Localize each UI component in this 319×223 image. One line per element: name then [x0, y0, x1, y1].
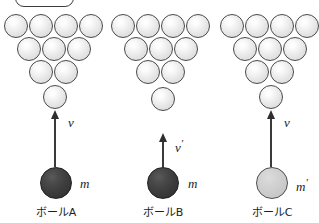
group-caption-c: ボールC: [222, 207, 319, 218]
pin-ball-c-r3-c2: [270, 60, 294, 84]
velocity-label-c: v: [284, 116, 290, 129]
pin-ball-c-r1-c1: [220, 14, 244, 38]
velocity-symbol-c: v: [284, 115, 290, 130]
velocity-arrow-head-c: [267, 110, 275, 119]
physics-collision-diagram: vmボールAv′mボールBvm′ボールC: [0, 0, 319, 223]
lone-pin-ball-c: [259, 85, 283, 109]
pin-ball-c-r3-c1: [245, 60, 269, 84]
ball-group-c: vm′ボールC: [0, 0, 319, 223]
mass-symbol-c: m: [296, 179, 305, 194]
pin-ball-c-r2-c3: [283, 37, 307, 61]
velocity-arrow-shaft-c: [270, 117, 272, 167]
projectile-ball-c: [256, 167, 288, 199]
pin-ball-c-r1-c2: [245, 14, 269, 38]
mass-prime-c: ′: [305, 176, 307, 188]
pin-ball-c-r2-c2: [258, 37, 282, 61]
pin-ball-c-r1-c4: [295, 14, 319, 38]
pin-ball-c-r2-c1: [233, 37, 257, 61]
pin-ball-c-r1-c3: [270, 14, 294, 38]
mass-label-c: m′: [296, 177, 308, 193]
